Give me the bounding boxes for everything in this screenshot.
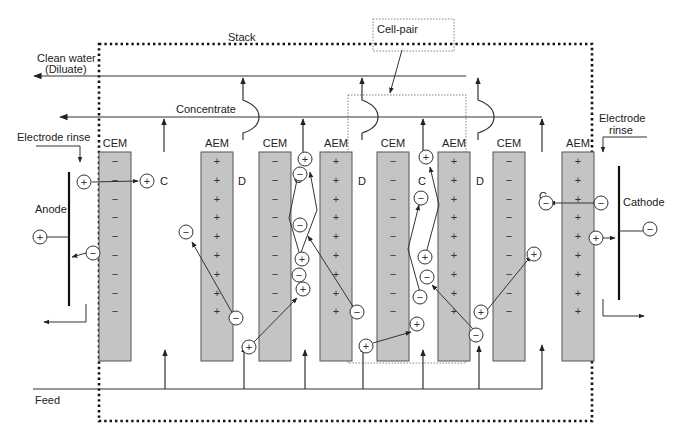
fixed-charge-sign: + xyxy=(214,287,220,299)
anion-icon: − xyxy=(292,268,306,282)
fixed-charge-sign: + xyxy=(214,193,220,205)
cation-icon: + xyxy=(527,247,541,261)
fixed-charge-sign: + xyxy=(214,249,220,261)
fixed-charge-sign: − xyxy=(390,193,396,205)
svg-text:+: + xyxy=(37,231,43,243)
membrane-label: CEM xyxy=(381,137,405,149)
anion-icon: − xyxy=(179,225,193,239)
svg-text:+: + xyxy=(302,153,308,165)
cation-icon: + xyxy=(77,175,91,189)
svg-text:+: + xyxy=(593,232,599,244)
compartment-label-concentrate: C xyxy=(160,175,168,187)
fixed-charge-sign: − xyxy=(272,174,278,186)
svg-text:−: − xyxy=(418,192,424,204)
fixed-charge-sign: + xyxy=(575,268,581,280)
fixed-charge-sign: − xyxy=(506,305,512,317)
fixed-charge-sign: − xyxy=(112,155,118,167)
fixed-charge-sign: − xyxy=(506,193,512,205)
fixed-charge-sign: − xyxy=(390,211,396,223)
fixed-charge-sign: − xyxy=(272,287,278,299)
diluate-riser xyxy=(362,78,378,140)
membrane-aem: AEM+++++++++ xyxy=(320,137,352,361)
fixed-charge-sign: − xyxy=(506,211,512,223)
ion-path xyxy=(300,172,317,255)
cation-icon: + xyxy=(33,230,47,244)
electrode-rinse-left-outlet xyxy=(44,304,86,322)
fixed-charge-sign: + xyxy=(575,155,581,167)
fixed-charge-sign: − xyxy=(112,287,118,299)
svg-text:+: + xyxy=(81,176,87,188)
fixed-charge-sign: − xyxy=(272,268,278,280)
fixed-charge-sign: + xyxy=(451,230,457,242)
fixed-charge-sign: + xyxy=(333,287,339,299)
fixed-charge-sign: + xyxy=(451,174,457,186)
svg-text:−: − xyxy=(296,269,302,281)
cell-pair-label: Cell-pair xyxy=(377,23,418,35)
svg-text:+: + xyxy=(246,341,252,353)
fixed-charge-sign: − xyxy=(112,268,118,280)
fixed-charge-sign: + xyxy=(333,211,339,223)
fixed-charge-sign: + xyxy=(214,174,220,186)
fixed-charge-sign: + xyxy=(575,287,581,299)
membrane-aem: AEM+++++++++ xyxy=(562,137,594,361)
fixed-charge-sign: + xyxy=(214,305,220,317)
electrode-rinse-right-label-2: rinse xyxy=(609,124,633,136)
fixed-charge-sign: + xyxy=(451,155,457,167)
anion-icon: − xyxy=(539,196,553,210)
fixed-charge-sign: − xyxy=(506,174,512,186)
membrane-label: CEM xyxy=(103,137,127,149)
fixed-charge-sign: − xyxy=(112,211,118,223)
concentrate-label: Concentrate xyxy=(176,103,236,115)
fixed-charge-sign: + xyxy=(575,249,581,261)
fixed-charge-sign: − xyxy=(506,249,512,261)
cation-icon: + xyxy=(359,339,373,353)
fixed-charge-sign: + xyxy=(333,230,339,242)
membrane-label: CEM xyxy=(263,137,287,149)
feed-label: Feed xyxy=(35,394,60,406)
svg-text:+: + xyxy=(422,251,428,263)
cation-icon: + xyxy=(242,340,256,354)
anion-icon: − xyxy=(293,167,307,181)
anion-icon: − xyxy=(420,270,434,284)
compartment-label-diluate: D xyxy=(238,175,246,187)
membrane-cem: CEM−−−−−−−−− xyxy=(259,137,291,361)
anion-icon: − xyxy=(86,246,100,260)
cation-icon: + xyxy=(589,231,603,245)
fixed-charge-sign: − xyxy=(390,305,396,317)
cation-icon: + xyxy=(419,150,433,164)
fixed-charge-sign: + xyxy=(575,211,581,223)
fixed-charge-sign: + xyxy=(333,193,339,205)
anion-icon: − xyxy=(229,311,243,325)
anion-icon: − xyxy=(594,196,608,210)
fixed-charge-sign: − xyxy=(272,305,278,317)
cation-icon: + xyxy=(295,252,309,266)
fixed-charge-sign: + xyxy=(451,287,457,299)
fixed-charge-sign: + xyxy=(575,305,581,317)
fixed-charge-sign: − xyxy=(272,193,278,205)
cation-icon: + xyxy=(474,305,488,319)
fixed-charge-sign: + xyxy=(214,268,220,280)
fixed-charge-sign: − xyxy=(112,174,118,186)
anion-icon: − xyxy=(414,191,428,205)
fixed-charge-sign: + xyxy=(333,305,339,317)
cation-icon: + xyxy=(298,152,312,166)
electrode-rinse-right-label-1: Electrode xyxy=(599,112,645,124)
svg-text:−: − xyxy=(233,312,239,324)
anion-icon: − xyxy=(643,222,657,236)
fixed-charge-sign: − xyxy=(390,155,396,167)
svg-text:+: + xyxy=(531,248,537,260)
svg-text:−: − xyxy=(417,291,423,303)
fixed-charge-sign: + xyxy=(451,249,457,261)
membrane-label: AEM xyxy=(442,137,466,149)
fixed-charge-sign: + xyxy=(575,174,581,186)
fixed-charge-sign: − xyxy=(112,230,118,242)
fixed-charge-sign: − xyxy=(272,155,278,167)
svg-text:−: − xyxy=(598,197,604,209)
svg-text:+: + xyxy=(363,340,369,352)
fixed-charge-sign: + xyxy=(575,230,581,242)
svg-text:−: − xyxy=(90,247,96,259)
fixed-charge-sign: − xyxy=(272,211,278,223)
cation-icon: + xyxy=(140,174,154,188)
electrode-rinse-left-label: Electrode rinse xyxy=(17,131,90,143)
svg-text:−: − xyxy=(473,329,479,341)
